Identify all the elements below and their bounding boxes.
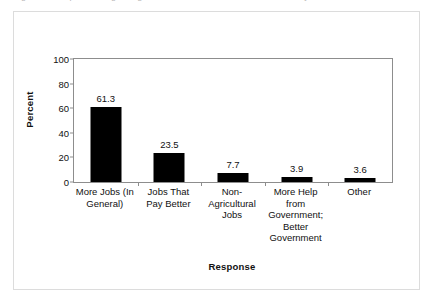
y-axis-tick-label: 40 (58, 127, 69, 138)
y-axis-title: Percent (24, 80, 35, 140)
x-axis-category-label-line: Better (264, 221, 328, 233)
y-axis-tick-label: 80 (58, 78, 69, 89)
bar[interactable] (217, 173, 248, 182)
cut-off-caption: Figure 3. Responses regarding what is mo… (13, 0, 413, 2)
x-axis-category-label-line: Government (264, 232, 328, 244)
x-axis-category-label: More Jobs (InGeneral) (73, 186, 137, 209)
x-axis-category-label-line: Jobs (200, 209, 264, 221)
x-axis-category-label-line: Government; (264, 209, 328, 221)
y-axis-tick-label: 20 (58, 152, 69, 163)
plot-area: 020406080100 61.323.57.73.93.6 (73, 58, 393, 183)
bar-group[interactable]: 23.5 (138, 59, 202, 182)
bar[interactable] (345, 178, 376, 182)
x-axis-category-label-line: More Help (264, 186, 328, 198)
y-axis-tick-label: 60 (58, 103, 69, 114)
y-axis-tick-label: 0 (64, 177, 69, 188)
figure-frame: Percent 020406080100 61.323.57.73.93.6 M… (13, 11, 420, 290)
x-axis-category-label: Other (327, 186, 391, 198)
x-axis-title: Response (73, 261, 391, 272)
x-axis-category-label: Jobs ThatPay Better (137, 186, 201, 209)
bar-group[interactable]: 7.7 (201, 59, 265, 182)
x-axis-category-label-line: Pay Better (137, 198, 201, 210)
bar[interactable] (281, 177, 312, 182)
y-axis-tick-label: 100 (53, 54, 69, 65)
bars-layer: 61.323.57.73.93.6 (74, 59, 392, 182)
x-axis-category-label-line: Jobs That (137, 186, 201, 198)
bar-value-label: 3.6 (354, 164, 367, 175)
bar-value-label: 7.7 (226, 159, 239, 170)
bar-value-label: 61.3 (97, 93, 116, 104)
x-axis-category-label-line: Non- (200, 186, 264, 198)
x-axis-category-label-line: More Jobs (In (73, 186, 137, 198)
bar-group[interactable]: 61.3 (74, 59, 138, 182)
bar[interactable] (90, 107, 121, 182)
x-axis-category-label: More HelpfromGovernment;BetterGovernment (264, 186, 328, 244)
bar-value-label: 23.5 (160, 139, 179, 150)
x-axis-category-label-line: General) (73, 198, 137, 210)
x-axis-category-label-line: Other (327, 186, 391, 198)
bar-value-label: 3.9 (290, 163, 303, 174)
x-axis-category-label-line: from (264, 198, 328, 210)
bar-group[interactable]: 3.6 (328, 59, 392, 182)
bar-group[interactable]: 3.9 (265, 59, 329, 182)
bar[interactable] (154, 153, 185, 182)
x-axis-category-labels: More Jobs (InGeneral)Jobs ThatPay Better… (73, 186, 391, 266)
x-axis-category-label-line: Agricultural (200, 198, 264, 210)
x-axis-category-label: Non-AgriculturalJobs (200, 186, 264, 221)
bar-chart: Percent 020406080100 61.323.57.73.93.6 M… (14, 12, 419, 289)
